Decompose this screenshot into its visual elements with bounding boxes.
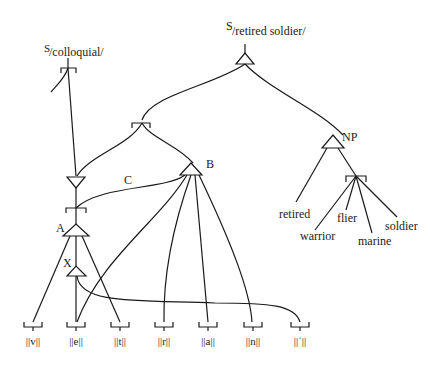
- bracket-n: [244, 322, 262, 327]
- edge: [33, 236, 70, 322]
- bracket-v: [24, 322, 42, 327]
- phoneme-e: ||e||: [69, 335, 83, 347]
- edge: [245, 64, 343, 135]
- label-b: B: [206, 157, 214, 171]
- edge: [164, 175, 191, 322]
- phoneme-a: ||a||: [201, 335, 215, 347]
- label-x: X: [63, 256, 72, 270]
- label-retired-soldier: /retired soldier/: [232, 24, 306, 38]
- phoneme-brackets: [24, 322, 309, 331]
- phoneme-stress: ||ˈ||: [294, 335, 306, 347]
- network-diagram: S /retired soldier/ S /colloquial/ C A X…: [0, 0, 430, 371]
- and-node-a: [63, 224, 89, 236]
- phoneme-t: ||t||: [114, 335, 126, 347]
- word-soldier: soldier: [385, 219, 418, 233]
- phoneme-r: ||r||: [158, 335, 170, 347]
- edge: [296, 148, 327, 202]
- phoneme-v: ||v||: [26, 335, 40, 347]
- edge: [346, 176, 356, 210]
- edge: [142, 64, 245, 120]
- edge: [51, 68, 68, 92]
- bracket-t: [111, 322, 129, 327]
- edge: [199, 175, 252, 322]
- edge: [68, 68, 76, 176]
- edge: [82, 236, 120, 322]
- bracket-r: [155, 322, 173, 327]
- edge: [338, 148, 356, 176]
- phoneme-n: ||n||: [246, 335, 260, 347]
- bracket-a: [199, 322, 217, 327]
- label-a: A: [56, 221, 65, 235]
- label-c: C: [124, 173, 132, 187]
- and-node-np: [322, 135, 344, 148]
- label-np: NP: [342, 130, 358, 144]
- word-warrior: warrior: [300, 229, 335, 243]
- edge: [195, 175, 208, 322]
- word-retired: retired: [279, 207, 310, 221]
- label-colloquial: /colloquial/: [49, 45, 104, 59]
- and-node-top: [236, 53, 254, 64]
- bracket-stress: [291, 322, 309, 327]
- and-node-b: [180, 163, 202, 175]
- word-marine: marine: [358, 234, 391, 248]
- edge: [142, 123, 193, 163]
- inverse-and-node: [67, 177, 85, 188]
- edge: [77, 123, 142, 176]
- bracket-e: [67, 322, 85, 327]
- word-flier: flier: [337, 211, 357, 225]
